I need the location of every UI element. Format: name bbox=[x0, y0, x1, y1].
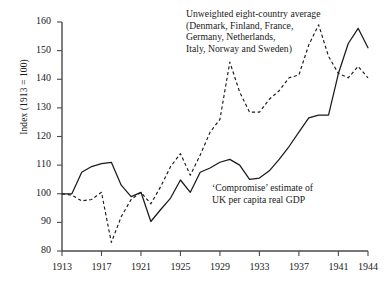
series-line-eight-country-average bbox=[62, 25, 368, 243]
y-axis-tick-label-160: 160 bbox=[25, 15, 51, 26]
x-axis-tick-label-1929: 1929 bbox=[203, 261, 237, 272]
x-axis-tick-label-1913: 1913 bbox=[45, 261, 79, 272]
x-axis-tick-label-1925: 1925 bbox=[163, 261, 197, 272]
x-axis-tick-label-1944: 1944 bbox=[351, 261, 385, 272]
y-axis-tick-label-130: 130 bbox=[25, 101, 51, 112]
x-axis-tick-label-1937: 1937 bbox=[282, 261, 316, 272]
y-axis-tick-label-150: 150 bbox=[25, 44, 51, 55]
legend-uk-compromise-line-1: ‘Compromise’ estimate of bbox=[212, 182, 313, 194]
y-axis-tick-label-80: 80 bbox=[25, 244, 51, 255]
x-axis-tick-label-1921: 1921 bbox=[124, 261, 158, 272]
y-axis-tick-label-100: 100 bbox=[25, 187, 51, 198]
y-axis-tick-label-140: 140 bbox=[25, 72, 51, 83]
y-axis-tick-label-110: 110 bbox=[25, 158, 51, 169]
legend-uk-compromise-estimate: ‘Compromise’ estimate of UK per capita r… bbox=[212, 182, 313, 205]
legend-eight-country-line-4: Italy, Norway and Sweden) bbox=[186, 43, 321, 55]
chart-container: Index (1913 = 100) 160150140130120110100… bbox=[0, 0, 386, 289]
legend-eight-country-line-1: Unweighted eight-country average bbox=[186, 8, 321, 20]
legend-uk-compromise-line-2: UK per capita real GDP bbox=[212, 194, 313, 206]
legend-eight-country-average: Unweighted eight-country average (Denmar… bbox=[186, 8, 321, 54]
x-axis-tick-label-1933: 1933 bbox=[242, 261, 276, 272]
x-axis-tick-label-1917: 1917 bbox=[84, 261, 118, 272]
x-axis-tick-marks bbox=[62, 251, 368, 256]
y-axis-tick-label-90: 90 bbox=[25, 215, 51, 226]
y-axis-tick-label-120: 120 bbox=[25, 130, 51, 141]
y-axis-tick-marks bbox=[57, 22, 62, 251]
chart-axes bbox=[62, 22, 368, 251]
legend-eight-country-line-3: Germany, Netherlands, bbox=[186, 31, 321, 43]
legend-eight-country-line-2: (Denmark, Finland, France, bbox=[186, 20, 321, 32]
